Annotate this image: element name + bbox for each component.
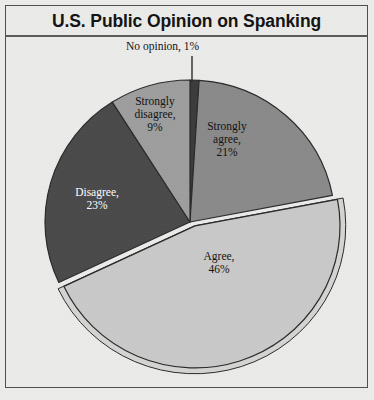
chart-page: U.S. Public Opinion on Spanking Strongly… bbox=[0, 0, 374, 400]
slice-label-disagree: Disagree, 23% bbox=[49, 186, 145, 212]
chart-title-bar: U.S. Public Opinion on Spanking bbox=[6, 6, 367, 36]
slice-label-strongly-agree: Strongly agree, 21% bbox=[184, 120, 270, 159]
slice-label-no-opinion: No opinion, 1% bbox=[126, 40, 199, 53]
slice-label-strongly-disagree: Strongly disagree, 9% bbox=[116, 95, 194, 134]
page-title: U.S. Public Opinion on Spanking bbox=[52, 11, 321, 32]
title-divider bbox=[6, 35, 367, 37]
pie-chart: Strongly agree, 21% Agree, 46% Disagree,… bbox=[6, 38, 367, 387]
slice-label-agree: Agree, 46% bbox=[176, 250, 262, 276]
pie-chart-svg bbox=[6, 38, 367, 387]
